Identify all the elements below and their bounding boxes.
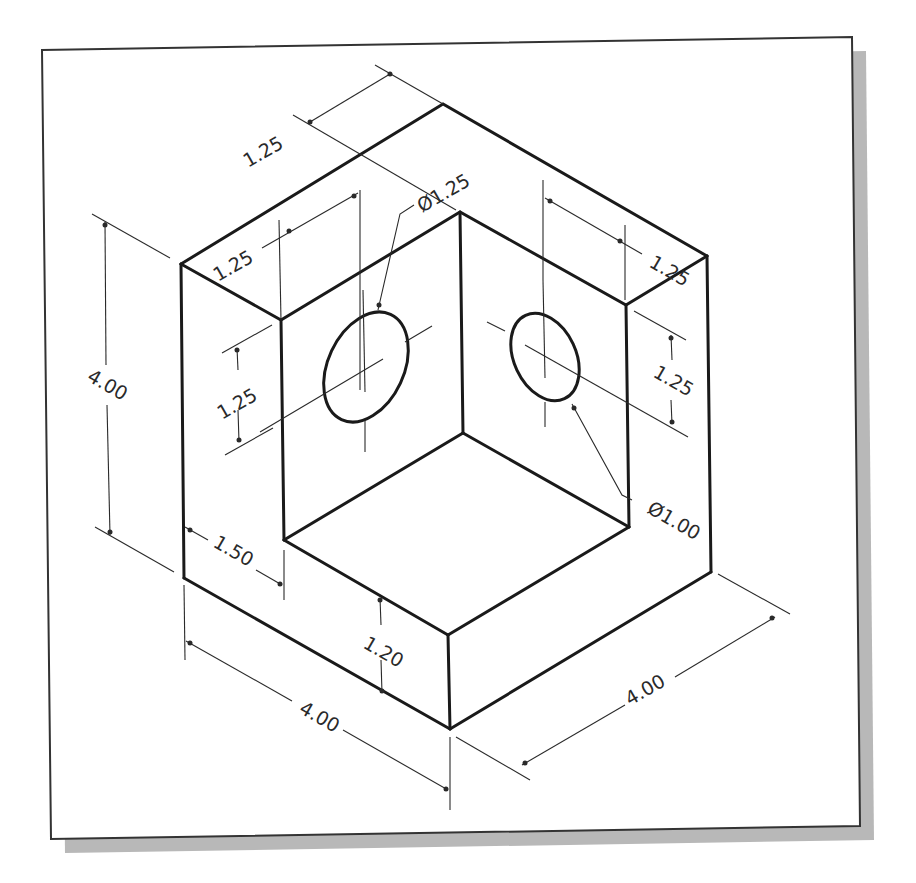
isometric-drawing: 1.25 1.25 Ø1.25 1.25 1.25 1.25 4.00 Ø1.0… bbox=[0, 0, 916, 883]
